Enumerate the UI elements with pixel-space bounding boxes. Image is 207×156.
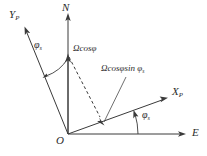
axis-label-east: E [192, 127, 199, 138]
vector-omega-cos-phi [65, 54, 71, 135]
angle-label-phi-s-upper: φs [34, 40, 42, 51]
axis-label-north-base: N [62, 1, 69, 13]
leader-omega-cos-phi-sin-line [104, 77, 126, 122]
dashed-projection-line [69, 57, 100, 117]
origin-label: O [56, 135, 64, 146]
label-omega-cos-phi-sin-subscript: s [142, 68, 144, 74]
vector-diagram-figure: YP N XP E O Ωcosφ Ωcosφsin φs φs φs [0, 0, 207, 156]
axis-label-east-base: E [192, 126, 199, 138]
axis-east [68, 131, 186, 136]
angle-arc-phi-s-upper [43, 58, 69, 78]
label-omega-cos-phi-sin-phi-s: Ωcosφsin φs [101, 64, 144, 74]
leader-omega-cos-phi-sin [104, 77, 126, 122]
axis-label-x-platform-base: X [172, 85, 179, 97]
diagram-canvas [0, 0, 207, 156]
angle-arc-phi-s-upper-path [46, 58, 68, 76]
angle-label-phi-s-lower-subscript: s [148, 114, 150, 121]
axis-label-x-platform: XP [172, 86, 183, 99]
angle-arc-phi-s-lower-path [135, 114, 138, 134]
dashed-projection [69, 57, 105, 126]
origin-label-base: O [56, 134, 64, 146]
axis-label-x-platform-sub: P [179, 91, 183, 98]
axis-x-platform-arrowhead [160, 97, 168, 103]
angle-arc-phi-s-lower [133, 110, 138, 134]
angle-label-phi-s-lower: φs [142, 110, 150, 121]
label-omega-cos-phi-sin-text: Ωcosφsin [101, 63, 137, 73]
axis-x-platform [68, 97, 168, 134]
axis-y-platform [25, 27, 69, 134]
angle-label-phi-s-upper-subscript: s [40, 44, 42, 51]
label-omega-cos-phi: Ωcosφ [73, 44, 96, 53]
axis-label-north: N [62, 2, 69, 13]
label-omega-cos-phi-text: Ωcosφ [73, 43, 96, 53]
axis-label-y-platform-sub: P [15, 14, 19, 21]
axis-label-y-platform: YP [9, 9, 19, 22]
